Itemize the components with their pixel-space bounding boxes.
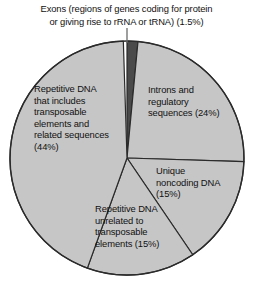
slice-label-repetitive-transposable: Repetitive DNA that includes transposabl… [34,83,110,153]
slice-label-introns: Introns and regulatory sequences (24%) [148,84,220,119]
slice-label-repetitive-unrelated: Repetitive DNA unrelated to transposable… [95,203,169,249]
slice-label-unique-noncoding: Unique noncoding DNA (15%) [156,165,228,200]
exons-callout-label: Exons (regions of genes coding for prote… [0,3,253,28]
exons-callout-line-2: or giving rise to rRNA or tRNA) (1.5%) [0,16,253,29]
exons-callout-line-1: Exons (regions of genes coding for prote… [0,3,253,16]
genome-composition-pie-figure: Exons (regions of genes coding for prote… [0,0,253,283]
